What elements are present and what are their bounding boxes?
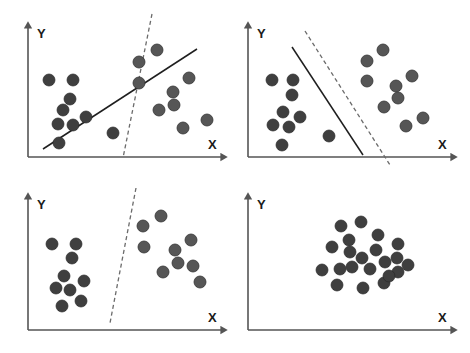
data-point: [361, 55, 373, 67]
data-point: [355, 216, 367, 228]
panel-top-left: YX: [28, 14, 222, 158]
data-point: [346, 261, 358, 273]
data-point: [155, 210, 167, 222]
data-point: [177, 122, 189, 134]
data-point: [46, 238, 58, 250]
data-point: [287, 74, 299, 86]
data-point: [194, 276, 206, 288]
data-point: [151, 44, 163, 56]
data-point: [383, 270, 395, 282]
data-point: [52, 118, 64, 130]
data-point: [201, 114, 213, 126]
data-point: [400, 120, 412, 132]
x-axis-label: X: [438, 310, 447, 325]
data-point: [370, 244, 382, 256]
data-point: [361, 75, 373, 87]
data-point: [50, 282, 62, 294]
data-point: [57, 104, 69, 116]
series-class-a: [266, 74, 335, 151]
data-point: [64, 93, 76, 105]
y-axis-label: Y: [37, 26, 46, 41]
data-point: [344, 246, 356, 258]
data-point: [185, 234, 197, 246]
data-point: [133, 56, 145, 68]
plot-canvas: YXYXYXYX: [0, 0, 470, 353]
data-point: [390, 80, 402, 92]
data-point: [323, 130, 335, 142]
x-axis-label: X: [208, 310, 217, 325]
data-point: [364, 263, 376, 275]
data-point: [157, 266, 169, 278]
data-point: [417, 112, 429, 124]
data-point: [67, 74, 79, 86]
data-point: [266, 74, 278, 86]
data-point: [153, 104, 165, 116]
panel-bottom-left: YX: [28, 188, 222, 330]
data-point: [168, 99, 180, 111]
data-point: [277, 106, 289, 118]
data-point: [167, 86, 179, 98]
x-axis-label: X: [208, 137, 217, 152]
data-point: [70, 238, 82, 250]
data-point: [56, 300, 68, 312]
data-point: [67, 119, 79, 131]
data-point: [66, 252, 78, 264]
data-point: [267, 119, 279, 131]
data-point: [331, 279, 343, 291]
data-point: [326, 241, 338, 253]
data-point: [402, 259, 414, 271]
data-point: [392, 238, 404, 250]
data-point: [137, 220, 149, 232]
data-point: [335, 220, 347, 232]
series-class-mixed: [316, 216, 414, 294]
data-point: [64, 284, 76, 296]
scatter-plot-figure: YXYXYXYX: [0, 0, 470, 353]
data-point: [343, 234, 355, 246]
data-point: [334, 263, 346, 275]
data-point: [379, 256, 391, 268]
y-axis-label: Y: [257, 197, 266, 212]
data-point: [406, 70, 418, 82]
data-point: [372, 229, 384, 241]
series-class-a: [46, 238, 90, 312]
panels-group: YXYXYXYX: [28, 14, 452, 330]
data-point: [107, 127, 119, 139]
series-class-b: [137, 210, 206, 288]
data-point: [138, 241, 150, 253]
data-point: [391, 252, 403, 264]
data-point: [172, 257, 184, 269]
data-point: [294, 111, 306, 123]
data-point: [53, 137, 65, 149]
data-point: [316, 264, 328, 276]
series-class-b: [361, 44, 429, 132]
series-class-b: [133, 44, 213, 134]
data-point: [187, 260, 199, 272]
data-point: [43, 74, 55, 86]
data-point: [378, 101, 390, 113]
panel-top-right: YX: [248, 26, 452, 165]
data-point: [283, 121, 295, 133]
y-axis-label: Y: [257, 26, 266, 41]
data-point: [392, 92, 404, 104]
data-point: [75, 295, 87, 307]
data-point: [377, 44, 389, 56]
data-point: [276, 139, 288, 151]
data-point: [286, 89, 298, 101]
data-point: [58, 270, 70, 282]
data-point: [357, 282, 369, 294]
data-point: [183, 72, 195, 84]
series-class-a: [43, 74, 119, 149]
x-axis-label: X: [438, 137, 447, 152]
data-point: [80, 111, 92, 123]
data-point: [78, 275, 90, 287]
panel-bottom-right: YX: [248, 197, 452, 330]
data-point: [133, 77, 145, 89]
data-point: [356, 252, 368, 264]
dashed-boundary: [110, 188, 136, 323]
y-axis-label: Y: [37, 197, 46, 212]
data-point: [169, 244, 181, 256]
